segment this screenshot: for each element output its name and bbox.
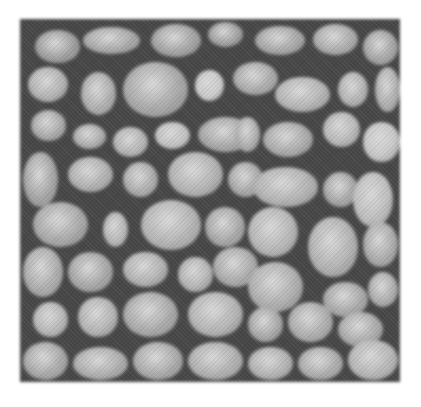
grain: [323, 112, 360, 147]
grain: [363, 222, 398, 267]
grain: [123, 252, 168, 287]
grain: [313, 24, 358, 55]
grain: [248, 207, 298, 257]
grain: [368, 272, 398, 307]
grain: [353, 172, 393, 227]
grain: [208, 22, 243, 47]
grain: [35, 30, 80, 63]
grain: [363, 122, 400, 162]
grain: [188, 342, 243, 380]
grain: [123, 62, 188, 117]
grain: [78, 297, 118, 337]
grain: [81, 72, 116, 115]
grain: [375, 67, 400, 112]
grain: [263, 122, 313, 157]
grain: [33, 302, 68, 337]
micrograph-image: [20, 19, 400, 382]
grain: [155, 122, 190, 149]
grain: [248, 307, 283, 342]
grain: [141, 200, 201, 250]
grain: [68, 157, 113, 192]
grain: [298, 347, 343, 380]
grain: [205, 207, 245, 247]
grain: [28, 67, 68, 102]
grain: [83, 27, 140, 54]
grain: [288, 302, 333, 342]
grain: [31, 110, 66, 141]
grain: [168, 152, 223, 197]
grain: [103, 212, 128, 247]
grain: [275, 77, 330, 112]
grain: [68, 252, 113, 292]
grain: [348, 340, 398, 380]
grain: [178, 257, 213, 292]
grain: [188, 292, 243, 337]
grain: [233, 62, 278, 95]
grain: [113, 127, 148, 157]
grain: [73, 347, 128, 380]
grain: [73, 124, 106, 149]
grain: [338, 72, 368, 107]
grain: [235, 117, 260, 152]
grain: [363, 30, 398, 65]
grain: [255, 26, 305, 55]
grain: [123, 162, 158, 197]
grain: [308, 217, 358, 277]
grain: [195, 70, 224, 101]
grain: [151, 24, 201, 57]
grain: [23, 152, 58, 207]
grain: [253, 167, 318, 207]
grain: [133, 342, 183, 380]
grain: [123, 292, 178, 337]
grain: [33, 202, 88, 247]
grain: [248, 347, 293, 380]
grain: [248, 262, 303, 312]
grain: [23, 342, 68, 380]
grain: [23, 247, 63, 297]
